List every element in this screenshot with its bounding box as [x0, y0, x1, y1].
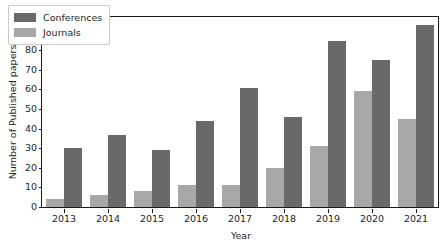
x-axis-tick-mark: [416, 209, 417, 213]
bar-conferences-2021: [416, 25, 434, 207]
bar-conferences-2018: [284, 117, 302, 207]
y-axis-tick-mark: [39, 109, 43, 110]
x-axis-tick-mark: [108, 209, 109, 213]
y-axis-tick-mark: [39, 207, 43, 208]
y-axis-tick-label: 70: [1, 65, 37, 75]
y-axis-tick-label: 50: [1, 104, 37, 114]
y-axis-tick-mark: [39, 168, 43, 169]
legend-swatch-conferences-icon: [14, 13, 36, 22]
x-axis-tick-mark: [152, 209, 153, 213]
legend-item-journals: Journals: [14, 25, 102, 40]
bar-conferences-2019: [328, 41, 346, 207]
legend-label-journals: Journals: [43, 27, 81, 38]
x-axis-tick-mark: [64, 209, 65, 213]
y-axis-tick-label: 60: [1, 84, 37, 94]
x-axis-tick-mark: [372, 209, 373, 213]
bar-conferences-2020: [372, 60, 390, 207]
x-axis-tick-mark: [284, 209, 285, 213]
y-axis-tick-label: 20: [1, 163, 37, 173]
bar-journals-2013: [46, 199, 64, 207]
bar-journals-2015: [134, 191, 152, 207]
bar-conferences-2016: [196, 121, 214, 207]
bar-journals-2020: [354, 91, 372, 207]
bar-journals-2019: [310, 146, 328, 207]
legend-label-conferences: Conferences: [43, 12, 102, 23]
y-axis-tick-label: 40: [1, 124, 37, 134]
y-axis-tick-label: 30: [1, 143, 37, 153]
x-axis-label: Year: [40, 230, 442, 241]
y-axis-tick-mark: [39, 70, 43, 71]
x-axis-tick-mark: [196, 209, 197, 213]
bar-conferences-2017: [240, 88, 258, 207]
legend-item-conferences: Conferences: [14, 10, 102, 25]
y-axis-tick-mark: [39, 148, 43, 149]
y-axis-tick-mark: [39, 89, 43, 90]
bar-journals-2014: [90, 195, 108, 207]
y-axis-tick-mark: [39, 129, 43, 130]
y-axis-tick-label: 10: [1, 182, 37, 192]
y-axis-tick-label: 80: [1, 45, 37, 55]
bar-journals-2017: [222, 185, 240, 207]
bar-journals-2021: [398, 119, 416, 207]
x-axis-tick-mark: [328, 209, 329, 213]
bar-conferences-2013: [64, 148, 82, 207]
chart-legend: Conferences Journals: [8, 5, 110, 45]
y-axis-tick-mark: [39, 50, 43, 51]
legend-swatch-journals-icon: [14, 28, 36, 37]
x-axis-tick-label: 2021: [386, 213, 445, 224]
bar-journals-2018: [266, 168, 284, 207]
bar-conferences-2015: [152, 150, 170, 207]
x-axis-tick-mark: [240, 209, 241, 213]
y-axis-tick-label: 0: [1, 202, 37, 212]
bar-chart-figure: Number of Published papers Year 01020304…: [0, 0, 445, 248]
plot-inner: 0102030405060708090201320142015201620172…: [42, 17, 438, 207]
bar-journals-2016: [178, 185, 196, 207]
bar-conferences-2014: [108, 135, 126, 207]
y-axis-tick-mark: [39, 187, 43, 188]
